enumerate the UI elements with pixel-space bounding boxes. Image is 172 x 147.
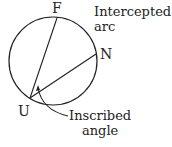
inscribed-angle-pointer	[38, 88, 68, 116]
arrowhead-icon	[36, 85, 40, 91]
intercepted-arc-label-line2: arc	[94, 20, 115, 34]
intercepted-arc-label-line1: Intercepted	[94, 5, 171, 19]
point-label-n: N	[100, 47, 112, 61]
chord-un	[30, 54, 96, 98]
chord-uf	[30, 18, 57, 98]
point-label-f: F	[52, 1, 62, 15]
inscribed-angle-label-line2: angle	[82, 124, 118, 138]
point-label-u: U	[18, 104, 30, 118]
inscribed-angle-label-line1: Inscribed	[69, 109, 131, 123]
